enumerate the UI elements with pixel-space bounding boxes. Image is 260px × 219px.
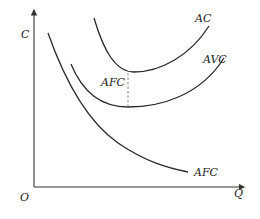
ac-curve (94, 18, 209, 72)
x-axis-label: Q (234, 187, 243, 200)
ac-label: AC (194, 12, 212, 25)
avc-curve (71, 58, 224, 107)
afc-gap-label: AFC (100, 76, 126, 89)
avc-label: AVC (202, 53, 227, 66)
cost-curves-diagram: C O Q AC AVC AFC AFC (0, 0, 260, 219)
origin-label: O (20, 191, 29, 204)
afc-label: AFC (193, 166, 219, 179)
afc-curve (48, 33, 188, 172)
y-axis-label: C (21, 28, 30, 41)
